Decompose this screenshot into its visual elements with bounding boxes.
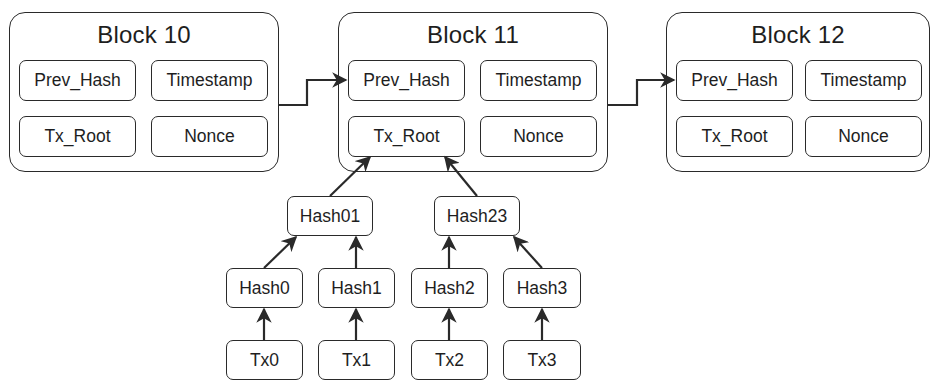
nonce-field: Nonce [480, 116, 597, 157]
tx-root-field: Tx_Root [348, 116, 465, 157]
tx2-node: Tx2 [411, 340, 488, 380]
hash23-node: Hash23 [434, 196, 520, 236]
tx1-node: Tx1 [318, 340, 395, 380]
tx-root-field: Tx_Root [19, 116, 136, 157]
prev-hash-field: Prev_Hash [348, 60, 465, 101]
timestamp-field: Timestamp [480, 60, 597, 101]
chain-arrow-10-11 [279, 80, 346, 105]
block-12: Block 12 Prev_Hash Timestamp Tx_Root Non… [666, 12, 930, 172]
block-title: Block 10 [10, 21, 278, 49]
block-10: Block 10 Prev_Hash Timestamp Tx_Root Non… [9, 12, 279, 172]
tx-root-field: Tx_Root [676, 116, 793, 157]
block-title: Block 12 [667, 21, 929, 49]
hash2-node: Hash2 [411, 268, 488, 308]
prev-hash-field: Prev_Hash [19, 60, 136, 101]
hash1-node: Hash1 [318, 268, 395, 308]
prev-hash-field: Prev_Hash [676, 60, 793, 101]
timestamp-field: Timestamp [805, 60, 922, 101]
tx3-node: Tx3 [503, 340, 581, 380]
timestamp-field: Timestamp [151, 60, 268, 101]
nonce-field: Nonce [805, 116, 922, 157]
arrow-hash0-hash01 [264, 237, 296, 268]
arrow-hash3-hash23 [514, 237, 542, 268]
block-11: Block 11 Prev_Hash Timestamp Tx_Root Non… [338, 12, 608, 172]
hash01-node: Hash01 [287, 196, 373, 236]
hash3-node: Hash3 [503, 268, 581, 308]
nonce-field: Nonce [151, 116, 268, 157]
block-title: Block 11 [339, 21, 607, 49]
tx0-node: Tx0 [226, 340, 303, 380]
hash0-node: Hash0 [226, 268, 303, 308]
chain-arrow-11-12 [608, 80, 674, 105]
